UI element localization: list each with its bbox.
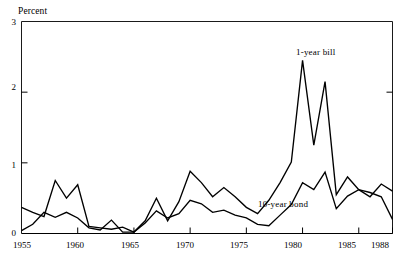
y-tick-label-3: 3 xyxy=(2,17,16,27)
y-axis-ticks xyxy=(22,92,393,163)
y-tick-label-1: 1 xyxy=(2,160,16,170)
chart-figure: Percent 0 1 2 3 1955 1960 1965 1970 1975… xyxy=(0,0,402,263)
series-label-10-year-bond: 10-year bond xyxy=(258,199,308,209)
x-tick-label-1985: 1985 xyxy=(332,240,362,250)
x-tick-label-1975: 1975 xyxy=(224,240,254,250)
x-tick-label-1965: 1965 xyxy=(115,240,145,250)
x-tick-label-1988: 1988 xyxy=(365,240,395,250)
series-lines xyxy=(22,60,393,232)
y-tick-label-2: 2 xyxy=(2,82,16,92)
x-tick-label-1980: 1980 xyxy=(278,240,308,250)
y-tick-label-0: 0 xyxy=(2,228,16,238)
axis-frame xyxy=(22,22,393,234)
x-tick-label-1970: 1970 xyxy=(170,240,200,250)
interest-rate-spread-line-chart xyxy=(0,0,402,263)
x-tick-label-1960: 1960 xyxy=(60,240,90,250)
series-label-1-year-bill: 1-year bill xyxy=(296,47,335,57)
x-tick-label-1955: 1955 xyxy=(7,240,37,250)
